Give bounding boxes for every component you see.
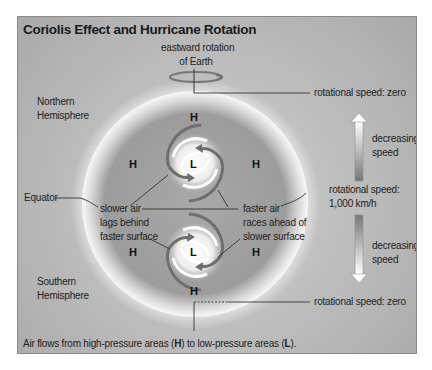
caption-text: Air flows from high-pressure areas ( bbox=[23, 338, 174, 349]
speed-arrow-up-icon bbox=[351, 113, 367, 181]
label-line: eastward rotation bbox=[161, 41, 231, 55]
equator-label: Equator bbox=[24, 191, 58, 205]
label-line: faster air bbox=[243, 202, 306, 216]
label-line: speed bbox=[372, 146, 417, 160]
speed-equator-label: rotational speed: 1,000 km/h bbox=[329, 183, 400, 211]
label-line: rotational speed: bbox=[329, 183, 400, 197]
diagram-title: Coriolis Effect and Hurricane Rotation bbox=[23, 22, 256, 37]
high-pressure-mark: H bbox=[129, 246, 137, 258]
label-line: 1,000 km/h bbox=[329, 197, 400, 211]
label-line: Hemisphere bbox=[37, 109, 89, 123]
caption-text: ). bbox=[291, 338, 297, 349]
label-line: Hemisphere bbox=[37, 289, 89, 303]
caption: Air flows from high-pressure areas (H) t… bbox=[23, 338, 296, 349]
high-pressure-mark: H bbox=[190, 111, 198, 123]
southern-hemisphere-label: Southern Hemisphere bbox=[37, 275, 89, 303]
high-pressure-mark: H bbox=[252, 158, 260, 170]
caption-text: ) to low-pressure areas ( bbox=[181, 338, 284, 349]
speed-zero-top-label: rotational speed: zero bbox=[314, 86, 406, 100]
label-line: decreasing bbox=[372, 239, 417, 253]
diagram-frame: Coriolis Effect and Hurricane Rotation e… bbox=[17, 16, 417, 354]
label-line: decreasing bbox=[372, 132, 417, 146]
northern-hemisphere-label: Northern Hemisphere bbox=[37, 95, 89, 123]
high-pressure-mark: H bbox=[190, 285, 198, 297]
low-pressure-mark: L bbox=[190, 246, 197, 258]
label-line: slower air bbox=[100, 202, 158, 216]
faster-air-label: faster air races ahead of slower surface bbox=[243, 202, 306, 244]
label-line: faster surface bbox=[100, 230, 158, 244]
slower-air-label: slower air lags behind faster surface bbox=[100, 202, 158, 244]
low-pressure-mark: L bbox=[190, 158, 197, 170]
decreasing-speed-top-label: decreasing speed bbox=[372, 132, 417, 160]
label-line: lags behind bbox=[100, 216, 158, 230]
label-line: races ahead of bbox=[243, 216, 306, 230]
speed-arrow-down-icon bbox=[351, 215, 367, 283]
label-line: speed bbox=[372, 253, 417, 267]
label-line: Northern bbox=[37, 95, 89, 109]
speed-zero-bottom-label: rotational speed: zero bbox=[314, 295, 406, 309]
high-pressure-mark: H bbox=[252, 246, 260, 258]
decreasing-speed-bottom-label: decreasing speed bbox=[372, 239, 417, 267]
eastward-rotation-label: eastward rotation of Earth bbox=[161, 41, 231, 69]
label-line: of Earth bbox=[161, 55, 231, 69]
high-pressure-mark: H bbox=[129, 158, 137, 170]
label-line: slower surface bbox=[243, 230, 306, 244]
label-line: Southern bbox=[37, 275, 89, 289]
